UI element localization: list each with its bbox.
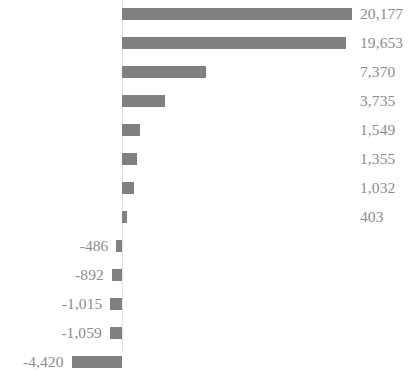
bar	[122, 124, 140, 136]
bar-value-label: 7,370	[360, 61, 395, 82]
bar-value-label: -486	[80, 235, 109, 256]
bar	[122, 95, 165, 107]
bar	[72, 356, 122, 368]
bar-value-label: 20,177	[360, 3, 403, 24]
chart-row: 1,032	[0, 173, 420, 202]
chart-row: -892	[0, 260, 420, 289]
chart-row: 7,370	[0, 57, 420, 86]
bar-value-label: 19,653	[360, 32, 403, 53]
chart-row: -486	[0, 231, 420, 260]
chart-row: 20,177	[0, 0, 420, 28]
bar	[122, 66, 206, 78]
bar	[112, 269, 122, 281]
bar	[122, 37, 346, 49]
chart-row: 3,735	[0, 86, 420, 115]
bar-value-label: 1,032	[360, 177, 395, 198]
chart-row: -4,420	[0, 347, 420, 373]
chart-row: 1,549	[0, 115, 420, 144]
bar-value-label: -1,015	[62, 293, 103, 314]
chart-row: 403	[0, 202, 420, 231]
bar	[110, 327, 122, 339]
bar	[122, 211, 127, 223]
bar	[122, 182, 134, 194]
bar-value-label: -1,059	[61, 322, 102, 343]
chart-row: 19,653	[0, 28, 420, 57]
bar	[110, 298, 122, 310]
bar-value-label: 1,549	[360, 119, 395, 140]
bar	[122, 153, 137, 165]
chart-row: -1,015	[0, 289, 420, 318]
chart-row: -1,059	[0, 318, 420, 347]
bar-value-label: 3,735	[360, 90, 395, 111]
bar-value-label: 1,355	[360, 148, 395, 169]
bar	[122, 8, 352, 20]
bar-value-label: -4,420	[23, 351, 64, 372]
chart-row: 1,355	[0, 144, 420, 173]
bar-value-label: -892	[75, 264, 104, 285]
bar	[116, 240, 122, 252]
bar-value-label: 403	[360, 206, 384, 227]
